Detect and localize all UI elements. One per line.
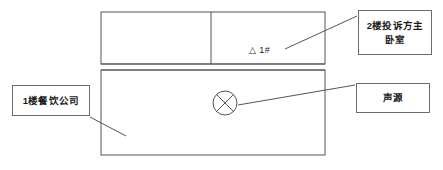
upper-floor-outline: [101, 12, 325, 64]
lower-floor-outline: [101, 70, 325, 155]
callout-box-restaurant: 1楼餐饮公司: [12, 85, 90, 116]
leader-line-source: [238, 85, 355, 105]
sound-source-symbol: [213, 91, 237, 115]
callout-source-line-1: 声源: [383, 91, 403, 105]
callout-box-sound-source: 声源: [356, 83, 430, 113]
leader-line-bedroom: [285, 16, 357, 49]
callout-bedroom-line-2: 卧室: [385, 33, 405, 47]
leader-line-restaurant: [90, 117, 126, 136]
callout-restaurant-line-1: 1楼餐饮公司: [23, 94, 79, 108]
measurement-point-1#-label: △ 1#: [249, 45, 270, 55]
callout-bedroom-line-1: 2楼投诉方主: [367, 19, 423, 33]
callout-box-bedroom: 2楼投诉方主 卧室: [358, 10, 432, 55]
building-cross-section-figure: △ 1# 2楼投诉方主 卧室 声源 1楼餐饮公司: [0, 0, 443, 170]
